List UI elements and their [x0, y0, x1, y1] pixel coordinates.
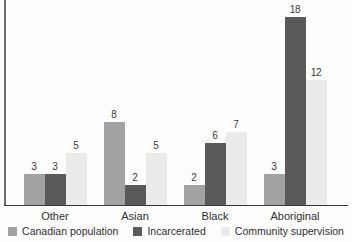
legend-swatch-icon [8, 227, 17, 236]
legend-swatch-icon [133, 227, 142, 236]
bar-value-label: 5 [61, 140, 91, 151]
legend-item-community-supervision: Community supervision [221, 225, 344, 237]
bar [45, 174, 66, 206]
legend-label: Incarcerated [147, 225, 205, 237]
bar [66, 153, 87, 206]
bar-value-label: 8 [99, 109, 129, 120]
bar [285, 17, 306, 206]
category-label-asian: Asian [93, 210, 177, 222]
bar [306, 80, 327, 206]
bar-chart: 33582526731812 OtherAsianBlackAboriginal… [0, 0, 352, 242]
legend-label: Canadian population [22, 225, 118, 237]
category-label-other: Other [13, 210, 97, 222]
bar [125, 185, 146, 206]
legend-item-incarcerated: Incarcerated [133, 225, 205, 237]
bar [226, 132, 247, 206]
category-label-black: Black [173, 210, 257, 222]
bar [146, 153, 167, 206]
x-axis-line [4, 205, 348, 207]
legend-swatch-icon [221, 227, 230, 236]
bar-value-label: 18 [280, 4, 310, 15]
bar [104, 122, 125, 206]
legend: Canadian populationIncarceratedCommunity… [0, 225, 352, 237]
bar [264, 174, 285, 206]
bar [24, 174, 45, 206]
bar [184, 185, 205, 206]
y-axis-line [4, 0, 6, 206]
legend-label: Community supervision [235, 225, 344, 237]
bar-value-label: 12 [301, 67, 331, 78]
bar [205, 143, 226, 206]
bar-value-label: 7 [221, 119, 251, 130]
legend-item-canadian-population: Canadian population [8, 225, 118, 237]
category-label-aboriginal: Aboriginal [253, 210, 337, 222]
bar-value-label: 5 [141, 140, 171, 151]
